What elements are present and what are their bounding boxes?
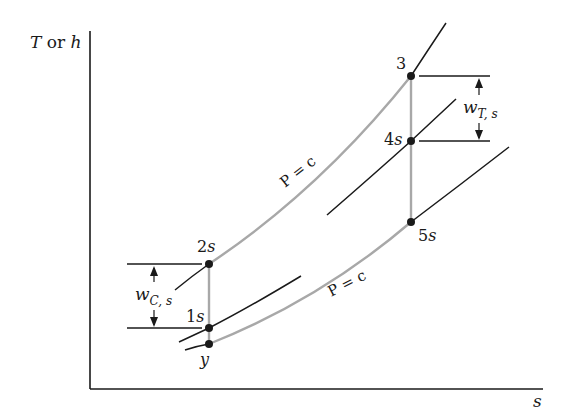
point-5s	[407, 218, 415, 226]
isobar-label-upper: P = c	[276, 152, 319, 191]
label-point-5s: 5s	[418, 226, 436, 245]
point-3	[407, 72, 415, 80]
y-axis-label: T or h	[30, 32, 81, 52]
x-axis-label: s	[533, 391, 542, 411]
turbine-arrow-down-icon	[475, 130, 483, 140]
point-1s	[205, 324, 213, 332]
turbine-arrow-up-icon	[475, 78, 483, 88]
compressor-work-label: wC, s	[135, 284, 172, 308]
point-2s	[205, 260, 213, 268]
label-point-4s: 4s	[384, 130, 402, 149]
turbine-work-label: wT, s	[463, 97, 498, 121]
label-point-3: 3	[396, 54, 406, 73]
label-point-1s: 1s	[186, 307, 204, 326]
point-4s	[407, 137, 415, 145]
isobar-high-curve	[411, 23, 446, 76]
compressor-arrow-down-icon	[150, 317, 158, 327]
ts-diagram: T or h s 3 4s 5s 2s 1s y P = c P = c wT,…	[0, 0, 564, 416]
point-y	[205, 340, 213, 348]
label-point-y: y	[199, 350, 210, 369]
isobar-low-curve	[411, 147, 509, 222]
isobar-lower-process	[209, 222, 411, 344]
isobar-mid-curve	[327, 99, 456, 215]
label-point-2s: 2s	[197, 237, 215, 256]
compressor-arrow-up-icon	[150, 266, 158, 276]
isobar-2s-curve	[175, 264, 209, 290]
